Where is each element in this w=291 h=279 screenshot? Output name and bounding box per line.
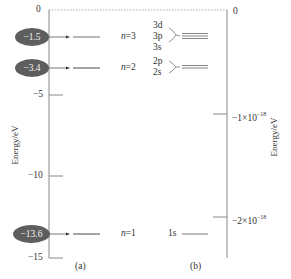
bracket-n3 — [169, 28, 176, 42]
arrow-n2 — [49, 67, 70, 70]
tick-label-0: 0 — [36, 5, 41, 15]
level-lines-n2-subshells — [182, 66, 208, 69]
bracket-n2 — [169, 61, 176, 73]
orbital-label-3s: 3s — [153, 43, 161, 53]
right-tick-label-minus2e-18: −2×10−18 — [232, 214, 266, 227]
energy-badge-n3: −1.5 — [15, 28, 49, 46]
arrow-n3 — [49, 36, 70, 39]
tick-label-minus5: −5 — [33, 90, 43, 100]
axis-label-left: Energy/eV — [10, 126, 20, 165]
arrow-n1 — [49, 233, 70, 236]
orbital-label-2p: 2p — [153, 57, 163, 67]
axis-label-right: Energy/eV — [269, 118, 279, 157]
level-label-n1: n=1 — [121, 229, 136, 239]
level-lines-n3-subshells — [182, 34, 208, 39]
right-tick-label-0: 0 — [233, 7, 238, 17]
level-label-n3: n=3 — [121, 32, 136, 42]
panel-label-a: (a) — [75, 262, 86, 272]
level-label-n2: n=2 — [121, 63, 136, 73]
orbital-label-2s: 2s — [153, 68, 161, 78]
energy-badge-n2: −3.4 — [15, 59, 49, 77]
orbital-label-3d: 3d — [153, 21, 163, 31]
panel-label-b: (b) — [190, 262, 201, 272]
energy-badge-n1: −13.6 — [13, 225, 50, 243]
right-tick-label-minus1e-18: −1×10−18 — [232, 111, 266, 124]
orbital-label-3p: 3p — [153, 32, 163, 42]
tick-label-minus10: −10 — [28, 171, 43, 181]
tick-label-minus15: −15 — [28, 253, 43, 263]
orbital-label-1s: 1s — [168, 229, 176, 239]
